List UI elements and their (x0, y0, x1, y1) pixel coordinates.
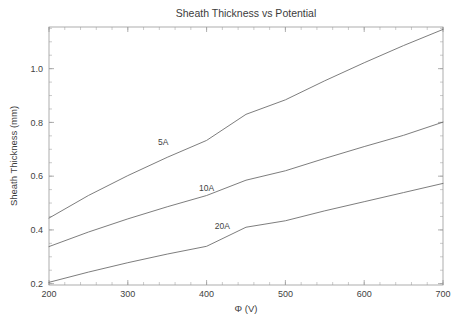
y-tick-label: 0.4 (30, 225, 43, 235)
chart-title: Sheath Thickness vs Potential (176, 7, 316, 19)
x-tick-label: 500 (278, 289, 293, 299)
x-axis-label: Φ (V) (235, 303, 258, 314)
chart-canvas: Sheath Thickness vs Potential 2003004005… (0, 0, 463, 323)
y-axis-label: Sheath Thickness (mm) (8, 106, 19, 206)
x-tick-label: 300 (120, 289, 135, 299)
series-label-10a: 10A (199, 183, 214, 193)
x-tick-label: 200 (41, 289, 56, 299)
sheath-thickness-line-chart: Sheath Thickness vs Potential 2003004005… (0, 0, 463, 323)
series-label-20a: 20A (215, 221, 230, 231)
series-label-5a: 5A (158, 137, 169, 147)
y-tick-label: 0.2 (30, 279, 43, 289)
y-tick-label: 0.8 (30, 118, 43, 128)
x-tick-label: 700 (435, 289, 450, 299)
x-tick-label: 400 (199, 289, 214, 299)
y-tick-label: 0.6 (30, 171, 43, 181)
x-tick-label: 600 (357, 289, 372, 299)
y-tick-label: 1.0 (30, 64, 43, 74)
chart-background (0, 0, 463, 323)
